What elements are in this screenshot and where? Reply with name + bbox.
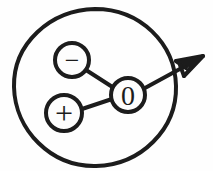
- dipole-molecule-figure: − + 0: [0, 0, 213, 171]
- positive-charge-node: +: [46, 95, 82, 131]
- center-zero-label: 0: [121, 80, 135, 111]
- negative-charge-label: −: [65, 46, 80, 75]
- diagram-canvas: − + 0 Hand drawn diagram: a large circle…: [0, 0, 213, 171]
- bond-negative-center: [86, 70, 114, 88]
- negative-charge-node: −: [55, 43, 89, 77]
- outer-boundary-circle: [14, 9, 176, 166]
- positive-charge-label: +: [55, 95, 73, 131]
- center-zero-node: 0: [111, 78, 145, 112]
- bond-positive-center: [82, 99, 112, 109]
